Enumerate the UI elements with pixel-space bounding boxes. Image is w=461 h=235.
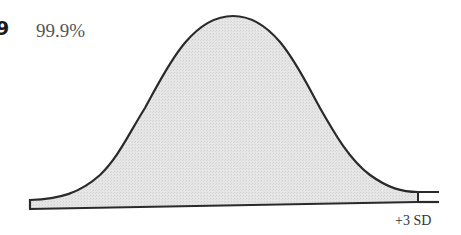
percentage-label: 99.9% (36, 21, 85, 40)
partial-label: 9 (0, 19, 9, 38)
shaded-area (30, 16, 418, 209)
sd-cutoff-label: +3 SD (395, 214, 431, 228)
